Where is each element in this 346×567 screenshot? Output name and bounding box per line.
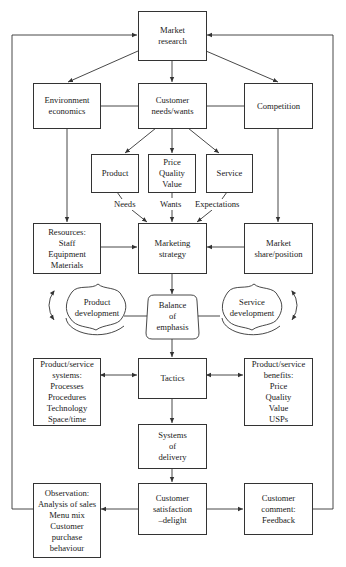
node-marketing-strategy: Marketing strategy <box>138 223 207 274</box>
node-text: Product <box>102 168 129 179</box>
node-text: Customer <box>50 521 83 532</box>
cycle-arrow-right <box>292 291 297 320</box>
node-text: delivery <box>158 452 186 463</box>
node-text: Price <box>163 157 181 168</box>
node-text: –delight <box>158 515 186 526</box>
node-text: Customer <box>156 493 189 504</box>
node-service-development: Service development <box>221 297 283 319</box>
node-service: Service <box>206 154 253 193</box>
node-text: comment: <box>261 504 295 515</box>
node-product-service-systems: Product/service systems: Processes Proce… <box>33 358 101 426</box>
node-text: Space/time <box>48 414 86 425</box>
node-text: satisfaction <box>153 504 192 515</box>
node-text: of <box>146 311 199 322</box>
node-text: Customer <box>262 493 295 504</box>
node-text: needs/wants <box>151 106 193 117</box>
node-text: Feedback <box>262 515 295 526</box>
node-customer-needs-wants: Customer needs/wants <box>138 83 207 129</box>
node-price-quality-value: Price Quality Value <box>148 154 196 193</box>
node-text: Market <box>160 25 185 36</box>
node-text: Observation: <box>45 488 89 499</box>
node-text: Customer <box>156 95 189 106</box>
node-text: Competition <box>257 101 300 112</box>
node-text: strategy <box>159 249 186 260</box>
node-text: Resources: <box>48 227 86 238</box>
node-text: Service <box>217 168 243 179</box>
node-resources: Resources: Staff Equipment Materials <box>33 223 101 274</box>
edge-label-wants: Wants <box>159 199 182 210</box>
node-text: behaviour <box>50 543 84 554</box>
node-text: Value <box>162 179 182 190</box>
node-product: Product <box>91 154 139 193</box>
node-text: benefits: <box>264 370 294 381</box>
node-text: development <box>66 308 128 319</box>
node-text: of <box>169 441 176 452</box>
arrow-research-competition <box>206 51 278 82</box>
node-text: Systems <box>158 430 187 441</box>
node-text: Analysis of sales <box>38 499 96 510</box>
node-text: Menu mix <box>49 510 85 521</box>
node-text: Price <box>270 381 288 392</box>
node-balance-of-emphasis: Balance of emphasis <box>146 300 199 333</box>
node-text: Market <box>266 238 291 249</box>
node-competition: Competition <box>244 83 313 129</box>
node-text: systems: <box>52 370 82 381</box>
node-text: purchase <box>52 532 83 543</box>
node-text: USPs <box>269 414 288 425</box>
node-text: Product <box>66 297 128 308</box>
node-text: Equipment <box>48 249 86 260</box>
node-text: Service <box>221 297 283 308</box>
node-text: Technology <box>47 403 87 414</box>
marketing-strategy-diagram: Market research Environment economics Cu… <box>0 0 346 567</box>
edge-label-expectations: Expectations <box>194 199 240 210</box>
node-text: Product/service <box>252 359 305 370</box>
node-text: Quality <box>159 168 185 179</box>
node-text: Value <box>269 403 289 414</box>
arrow-research-environment <box>68 51 138 82</box>
node-text: research <box>158 36 187 47</box>
node-text: emphasis <box>146 322 199 333</box>
node-market-share-position: Market share/position <box>244 223 313 274</box>
node-text: Balance <box>146 300 199 311</box>
node-text: Product/service <box>40 359 93 370</box>
node-text: share/position <box>254 249 302 260</box>
node-systems-of-delivery: Systems of delivery <box>138 424 207 469</box>
node-product-development: Product development <box>66 297 128 319</box>
node-market-research: Market research <box>138 11 207 61</box>
node-text: Materials <box>51 260 83 271</box>
node-text: Marketing <box>155 238 191 249</box>
node-text: Environment <box>45 95 90 106</box>
node-tactics: Tactics <box>138 358 207 399</box>
node-text: Staff <box>59 238 76 249</box>
node-customer-satisfaction: Customer satisfaction –delight <box>138 483 207 535</box>
cycle-arrow-left <box>49 291 54 320</box>
node-text: Procedures <box>48 392 86 403</box>
node-customer-comment: Customer comment: Feedback <box>244 483 313 535</box>
node-text: economics <box>49 106 86 117</box>
node-text: Processes <box>50 381 83 392</box>
node-observation: Observation: Analysis of sales Menu mix … <box>33 483 101 558</box>
node-environment-economics: Environment economics <box>33 83 101 129</box>
node-product-service-benefits: Product/service benefits: Price Quality … <box>244 358 313 426</box>
edge-label-needs: Needs <box>113 199 136 210</box>
node-text: development <box>221 308 283 319</box>
node-text: Tactics <box>160 373 184 384</box>
node-text: Quality <box>266 392 292 403</box>
